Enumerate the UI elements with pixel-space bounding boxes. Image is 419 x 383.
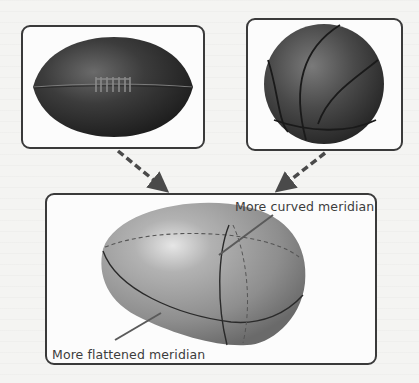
ellipsoid-panel [45, 193, 377, 365]
flattened-meridian-label: More flattened meridian [52, 347, 205, 362]
basketball-icon [248, 20, 400, 148]
egg-shaped-ellipsoid-icon [47, 195, 374, 362]
football-panel [21, 25, 205, 149]
curved-meridian-label: More curved meridian [235, 199, 374, 214]
basketball-panel [246, 18, 403, 151]
rugby-football-icon [23, 27, 202, 146]
